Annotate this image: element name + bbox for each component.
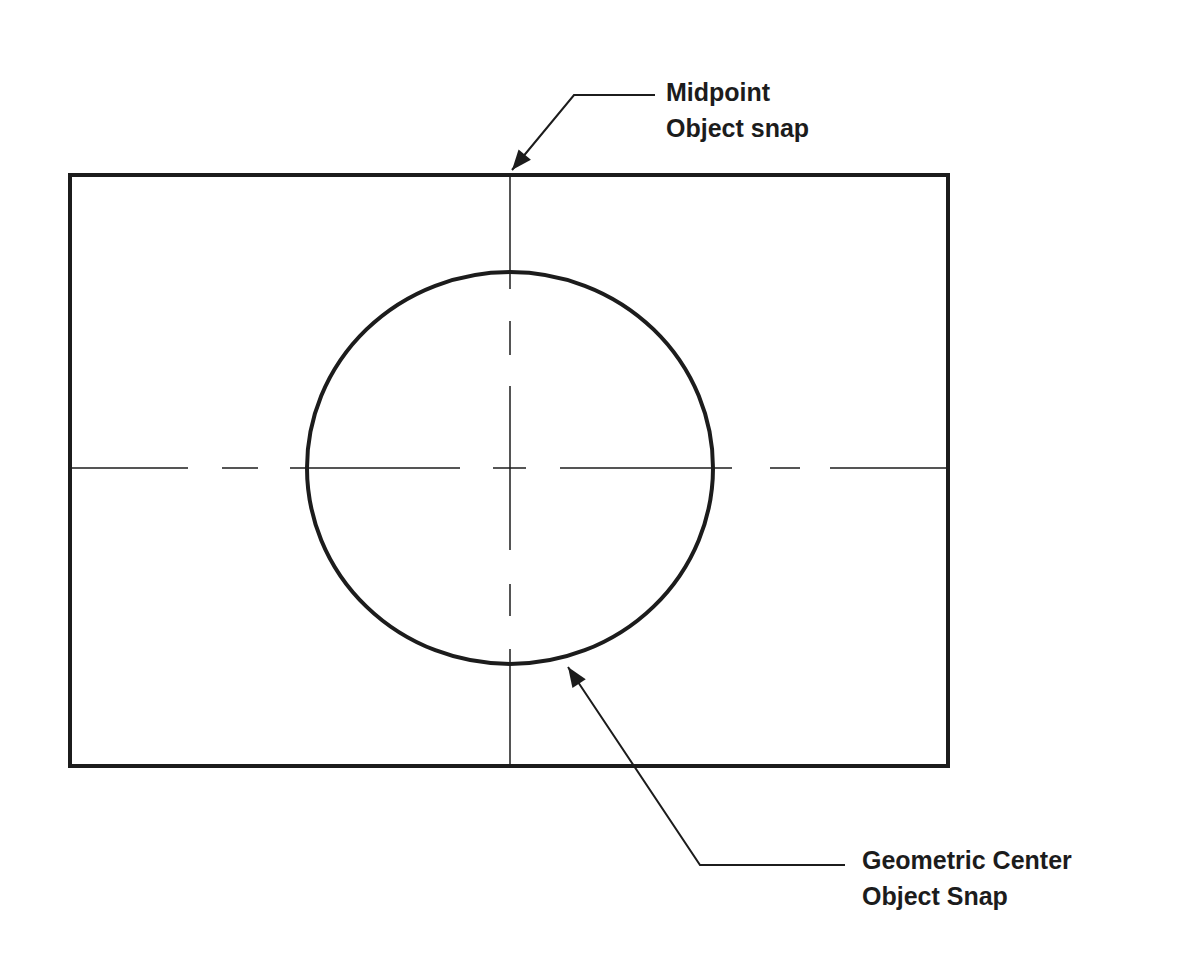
midpoint-object-snap-label: Midpoint Object snap [666, 74, 809, 146]
geometric-center-label-line1: Geometric Center [862, 842, 1072, 878]
midpoint-leader-line [512, 95, 655, 170]
arrowhead-icon [512, 149, 531, 170]
outer-rectangle [70, 175, 948, 766]
arrowhead-icon [568, 667, 586, 688]
geometric-center-object-snap-label: Geometric Center Object Snap [862, 842, 1072, 914]
midpoint-label-line2: Object snap [666, 110, 809, 146]
geometry-group [70, 95, 948, 865]
geometric-center-label-line2: Object Snap [862, 878, 1072, 914]
midpoint-label-line1: Midpoint [666, 74, 809, 110]
cad-drawing [0, 0, 1192, 961]
